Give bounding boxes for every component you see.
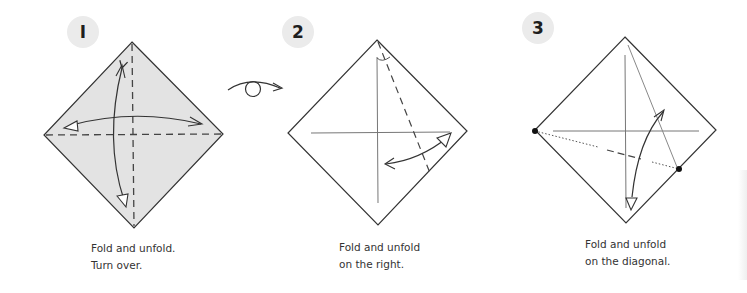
step-2-number: 2: [292, 24, 304, 41]
step-1-caption-line-1: Fold and unfold.: [91, 240, 175, 257]
step-1-caption: Fold and unfold. Turn over.: [91, 240, 175, 274]
step-1-diagram: [44, 42, 223, 228]
page-edge-shadow: [738, 170, 747, 280]
step-2-diagram: [288, 40, 467, 225]
step-3-badge: 3: [522, 12, 554, 44]
turn-over-icon: [228, 82, 282, 97]
step-2-caption-line-2: on the right.: [339, 256, 420, 273]
reference-dot-left-icon: [532, 128, 538, 134]
step-3-caption: Fold and unfold on the diagonal.: [585, 236, 670, 270]
step-1-badge: I: [67, 16, 99, 48]
step-3-number: 3: [532, 20, 544, 37]
step-3-caption-line-2: on the diagonal.: [585, 253, 670, 270]
origami-instructions: I 2 3 Fold and unfold. Turn over. Fold a…: [0, 0, 747, 293]
step-1-caption-line-2: Turn over.: [91, 257, 175, 274]
step-2-caption-line-1: Fold and unfold: [339, 239, 420, 256]
reference-dot-right-icon: [676, 166, 682, 172]
step-2-caption: Fold and unfold on the right.: [339, 239, 420, 273]
step-2-badge: 2: [282, 16, 314, 48]
step-3-caption-line-1: Fold and unfold: [585, 236, 670, 253]
step-1-number: I: [80, 24, 86, 41]
step-3-diagram: [532, 37, 716, 223]
